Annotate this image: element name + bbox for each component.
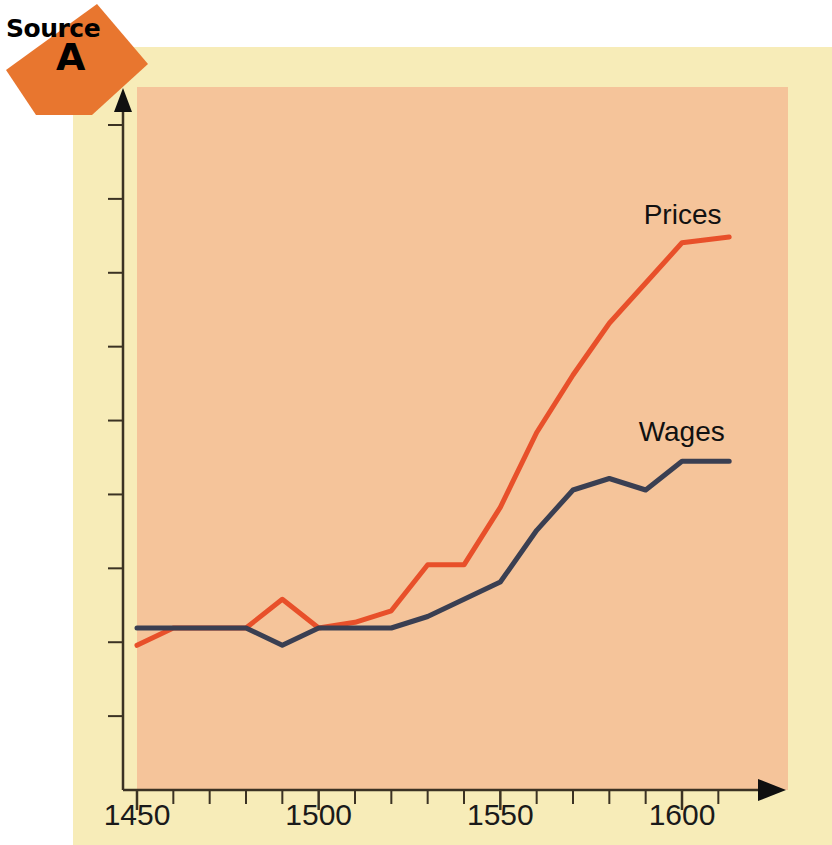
chart-figure: 1450150015501600 Prices Wages Source A: [0, 0, 832, 845]
badge-word-source: Source: [6, 14, 100, 43]
source-badge: Source A: [0, 0, 200, 125]
x-axis-tick-label: 1600: [649, 798, 716, 832]
x-axis-tick-label: 1500: [285, 798, 352, 832]
x-axis-arrowhead-icon: [758, 779, 786, 801]
x-axis-tick-label: 1450: [104, 798, 171, 832]
badge-letter-a: A: [56, 38, 85, 76]
x-axis-tick-label: 1550: [467, 798, 534, 832]
series-label-wages: Wages: [639, 416, 725, 448]
series-label-prices: Prices: [644, 199, 722, 231]
series-line-wages: [137, 461, 729, 645]
axes-group: [108, 88, 786, 810]
